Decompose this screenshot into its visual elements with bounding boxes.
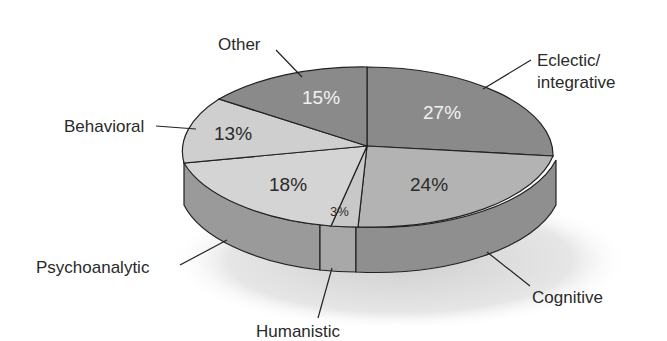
leader-other [276, 50, 302, 77]
label-psychoanalytic: Psychoanalytic [36, 258, 150, 277]
pct-cognitive: 24% [410, 174, 448, 195]
label-eclectic-2: integrative [537, 73, 615, 92]
label-cognitive: Cognitive [532, 288, 603, 307]
pct-other: 15% [302, 87, 340, 108]
label-behavioral: Behavioral [64, 117, 144, 136]
pie-top [182, 67, 553, 227]
label-eclectic-1: Eclectic/ [537, 51, 601, 70]
leader-eclectic [483, 60, 531, 89]
side-humanistic [320, 225, 356, 272]
pie-chart: 27% 15% 13% 18% 24% 3% Other Eclectic/ i… [0, 0, 667, 341]
pct-humanistic: 3% [330, 204, 349, 219]
pct-behavioral: 13% [214, 123, 252, 144]
label-humanistic: Humanistic [256, 322, 341, 341]
pct-eclectic: 27% [423, 102, 461, 123]
label-other: Other [218, 35, 261, 54]
pct-psychoanalytic: 18% [269, 174, 307, 195]
